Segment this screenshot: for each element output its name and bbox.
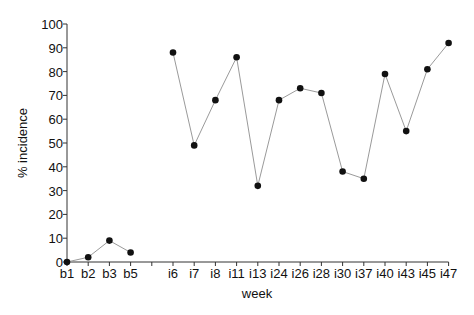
x-tick-label: i7 [189, 266, 199, 281]
series-line [67, 241, 131, 262]
y-tick-label: 60 [49, 112, 63, 127]
data-series [64, 40, 452, 266]
y-tick-label: 80 [49, 65, 63, 80]
x-tick-label: i13 [249, 266, 266, 281]
data-point-marker [339, 168, 346, 175]
x-tick-label: i40 [376, 266, 393, 281]
x-tick-label: i47 [440, 266, 457, 281]
data-point-marker [361, 175, 368, 182]
data-point-marker [170, 49, 177, 56]
y-tick-label: 90 [49, 41, 63, 56]
y-tick-label: 100 [41, 17, 63, 32]
data-point-marker [127, 249, 134, 256]
x-tick-label: i28 [313, 266, 330, 281]
data-point-marker [233, 54, 240, 61]
x-tick-label: i24 [270, 266, 287, 281]
x-axis: b1b2b3b5i6i7i8i11i13i24i26i28i30i37i40i4… [60, 262, 458, 281]
data-point-marker [85, 254, 92, 261]
data-point-marker [445, 40, 452, 47]
y-tick-label: 40 [49, 160, 63, 175]
y-axis-label: % incidence [15, 108, 30, 178]
data-point-marker [382, 71, 389, 78]
y-tick-label: 10 [49, 231, 63, 246]
data-point-marker [297, 85, 304, 92]
y-tick-label: 50 [49, 136, 63, 151]
data-point-marker [424, 66, 431, 73]
data-point-marker [191, 142, 198, 149]
y-tick-label: 20 [49, 207, 63, 222]
data-point-marker [318, 90, 325, 97]
data-point-marker [212, 97, 219, 104]
data-point-marker [64, 259, 71, 266]
data-point-marker [254, 183, 261, 190]
x-tick-label: b2 [81, 266, 95, 281]
x-tick-label: i37 [355, 266, 372, 281]
series-line [173, 43, 449, 186]
x-tick-label: i8 [210, 266, 220, 281]
data-point-marker [106, 237, 113, 244]
x-tick-label: i6 [168, 266, 178, 281]
x-tick-label: b5 [123, 266, 137, 281]
x-axis-label: week [241, 286, 273, 301]
y-tick-label: 30 [49, 184, 63, 199]
x-tick-label: i45 [419, 266, 436, 281]
data-point-marker [276, 97, 283, 104]
x-tick-label: i11 [228, 266, 244, 281]
y-tick-label: 70 [49, 88, 63, 103]
x-tick-label: b1 [60, 266, 74, 281]
line-chart: 0102030405060708090100 b1b2b3b5i6i7i8i11… [0, 0, 474, 315]
y-axis: 0102030405060708090100 [41, 17, 67, 270]
x-tick-label: i26 [292, 266, 309, 281]
x-tick-label: b3 [102, 266, 116, 281]
x-tick-label: i30 [334, 266, 351, 281]
data-point-marker [403, 128, 410, 135]
x-tick-label: i43 [398, 266, 415, 281]
